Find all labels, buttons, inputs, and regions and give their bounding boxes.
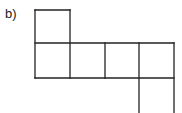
cube-net-diagram (0, 0, 182, 113)
